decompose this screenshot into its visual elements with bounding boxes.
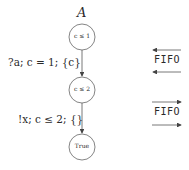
fifo-input-channel: FIFO	[154, 54, 180, 65]
fifo-output-channel: FIFO	[154, 106, 180, 117]
automaton-name: A	[77, 5, 86, 20]
transition-1-label: ?a; c = 1; {c}	[8, 56, 81, 68]
state-1-label: c ≤ 1	[69, 32, 95, 39]
state-2-label: c ≤ 2	[69, 85, 95, 92]
state-3-label: True	[69, 142, 95, 149]
transition-2-label: !x; c ≤ 2; {}	[18, 113, 83, 125]
